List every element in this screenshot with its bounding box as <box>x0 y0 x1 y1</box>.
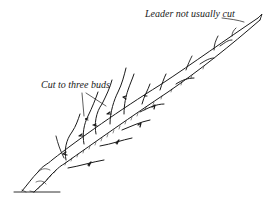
side-shoot <box>186 56 192 70</box>
side-shoot <box>68 160 104 168</box>
side-shoot <box>100 138 132 146</box>
side-shoot <box>124 74 134 114</box>
buds-callout-line <box>86 93 106 106</box>
branch-drawing <box>0 0 266 207</box>
buds-callout-line <box>82 93 84 116</box>
side-shoot <box>65 114 80 160</box>
leader-label: Leader not usually cut <box>145 9 235 19</box>
main-stem-lower-edge <box>34 20 260 192</box>
pruning-illustration: Leader not usually cut Cut to three buds <box>0 0 266 207</box>
buds-label: Cut to three buds <box>41 80 110 90</box>
side-shoot <box>122 120 150 130</box>
